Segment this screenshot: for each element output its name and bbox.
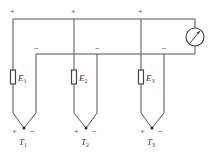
junction-plus: +: [140, 127, 145, 136]
plus-sign: +: [10, 7, 15, 16]
minus-sign: −: [34, 44, 39, 53]
junction-label-t1: T1: [19, 137, 27, 148]
junction-label-t3: T3: [147, 137, 155, 148]
junction-minus: −: [92, 127, 97, 136]
junction-minus: −: [158, 127, 163, 136]
emf-resistor-icon: [139, 70, 144, 84]
minus-sign: −: [162, 44, 167, 53]
junction-label-t2: T2: [81, 137, 89, 148]
junction-plus: +: [12, 127, 17, 136]
galvanometer-icon: [186, 28, 204, 46]
emf-label-e1: E1: [17, 73, 27, 84]
branch-2: + − E2 + − T2: [71, 7, 100, 148]
junction-dot-icon: [151, 127, 154, 130]
branch-1: + − E1 + − T1: [10, 7, 39, 148]
thermocouple-circuit-diagram: + − E1 + − T1 + − E2 + − T2 + − E3 + − T…: [0, 0, 217, 156]
junction-plus: +: [74, 127, 79, 136]
emf-resistor-icon: [11, 70, 16, 84]
junction-dot-icon: [85, 127, 88, 130]
junction-minus: −: [30, 127, 35, 136]
emf-label-e3: E3: [145, 73, 155, 84]
plus-sign: +: [138, 7, 143, 16]
branch-3: + − E3 + − T3: [138, 7, 167, 148]
emf-resistor-icon: [72, 70, 77, 84]
emf-label-e2: E2: [78, 73, 88, 84]
junction-dot-icon: [23, 127, 26, 130]
plus-sign: +: [71, 7, 76, 16]
minus-sign: −: [95, 44, 100, 53]
